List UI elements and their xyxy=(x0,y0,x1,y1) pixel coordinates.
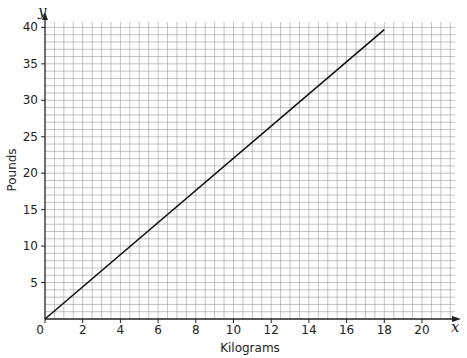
x-tick-label: 0 xyxy=(36,323,44,337)
x-tick-label: 4 xyxy=(117,323,125,337)
y-tick-label: 5 xyxy=(30,276,38,290)
x-tick-label: 2 xyxy=(79,323,87,337)
y-axis-label: Pounds xyxy=(5,148,19,191)
y-tick-label: 30 xyxy=(23,93,38,107)
x-tick-label: 8 xyxy=(192,323,200,337)
x-tick-label: 10 xyxy=(226,323,241,337)
x-tick-label: 16 xyxy=(339,323,354,337)
x-tick-label: 20 xyxy=(414,323,429,337)
x-tick-label: 18 xyxy=(377,323,392,337)
x-tick-label: 6 xyxy=(154,323,162,337)
y-tick-label: 15 xyxy=(23,203,38,217)
x-axis-variable: x xyxy=(451,318,460,336)
y-tick-label: 25 xyxy=(23,130,38,144)
y-tick-label: 35 xyxy=(23,57,38,71)
grid xyxy=(45,22,455,319)
y-tick-label: 40 xyxy=(23,20,38,34)
x-tick-label: 14 xyxy=(301,323,316,337)
y-axis-variable: y xyxy=(37,2,47,20)
tick-labels: 02468101214161820510152025303540 xyxy=(23,20,430,337)
x-tick-label: 12 xyxy=(264,323,279,337)
conversion-chart: 02468101214161820510152025303540 Kilogra… xyxy=(0,0,467,358)
y-tick-label: 20 xyxy=(23,166,38,180)
y-tick-label: 10 xyxy=(23,239,38,253)
x-axis-label: Kilograms xyxy=(220,341,280,355)
axes xyxy=(41,12,461,323)
